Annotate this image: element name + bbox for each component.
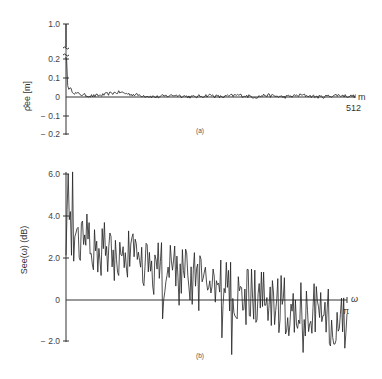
ytick-label: − 0.1 — [41, 111, 60, 121]
ytick-label: 0.2 — [48, 54, 60, 64]
y-axis-label-b: See(ω) (dB) — [19, 226, 29, 275]
y-axis-label-a: ρ̂ee [m] — [22, 81, 32, 111]
y-ticks-a: 1.0 0.2 0.1 0 − 0.1 − 0.2 — [41, 19, 69, 139]
ytick-label: 4.0 — [48, 211, 60, 221]
ytick-label: 6.0 — [48, 169, 60, 179]
chart-a: 1.0 0.2 0.1 0 − 0.1 − 0.2 ρ̂ee [m] m 512… — [22, 19, 366, 139]
panel-label-b: (b) — [196, 352, 204, 360]
ytick-label: − 2.0 — [41, 336, 60, 346]
ytick-label: 0 — [55, 295, 60, 305]
ytick-label: 0.1 — [48, 73, 60, 83]
ytick-label: 0 — [55, 92, 60, 102]
x-axis-label-a: m — [358, 92, 366, 102]
y-ticks-b: 6.0 4.0 2.0 0 − 2.0 — [41, 169, 69, 346]
figure: 1.0 0.2 0.1 0 − 0.1 − 0.2 ρ̂ee [m] m 512… — [0, 0, 382, 379]
ytick-label: − 0.2 — [41, 129, 60, 139]
series-line-a — [66, 24, 355, 98]
panel-label-a: (a) — [196, 127, 204, 135]
x-axis-label-b: ω — [351, 294, 358, 304]
ytick-label: 1.0 — [48, 19, 60, 29]
chart-b: 6.0 4.0 2.0 0 − 2.0 See(ω) (dB) ω π (b) — [19, 169, 358, 360]
series-line-b — [66, 172, 347, 355]
ytick-label: 2.0 — [48, 253, 60, 263]
x-end-label-a: 512 — [346, 103, 361, 113]
